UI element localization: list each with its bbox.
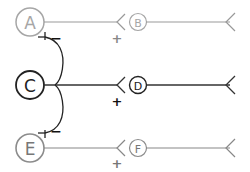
neuron-c-label: C [24, 76, 36, 96]
pathway-c-d: C D + − − [16, 30, 235, 139]
excitatory-sign: + [112, 94, 123, 109]
synapse-icon [117, 140, 125, 156]
neuron-f-label: F [135, 143, 141, 156]
neuron-a-label: A [24, 13, 36, 33]
synapse-icon [117, 77, 125, 93]
excitatory-sign: + [112, 156, 123, 171]
pathway-e-f: E F + [16, 134, 235, 171]
synapse-icon [117, 14, 125, 30]
pathway-a-b: A B + [16, 8, 235, 46]
neuron-e-label: E [25, 139, 36, 159]
inhibitory-sign: − [50, 123, 62, 139]
neuron-b-label: B [134, 17, 142, 30]
excitatory-sign: + [112, 31, 123, 46]
inhibitory-sign: − [50, 30, 62, 46]
neural-circuit-diagram: A B + C D + − − E F [0, 0, 250, 172]
neuron-d-label: D [134, 80, 142, 93]
